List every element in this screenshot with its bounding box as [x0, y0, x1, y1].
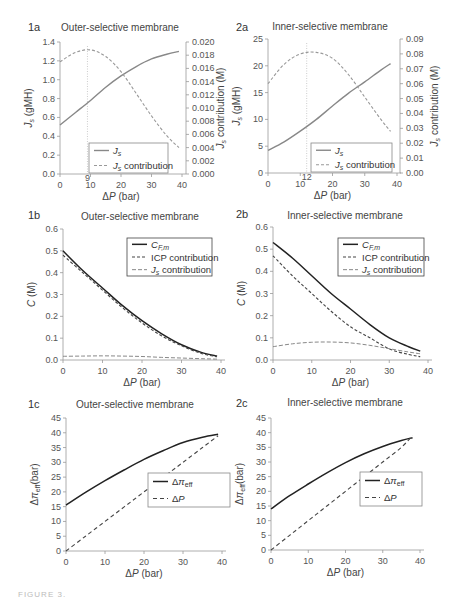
chart-panel-2c: 2cInner-selective membrane05101520253035…	[234, 397, 425, 578]
svg-text:30: 30	[146, 180, 156, 190]
svg-text:30: 30	[360, 179, 370, 189]
svg-text:35: 35	[256, 442, 266, 452]
legend: CF,mICP contributionJs contribution	[127, 238, 218, 276]
svg-text:15: 15	[51, 502, 61, 512]
legend-entry: Js contribution	[112, 160, 173, 172]
svg-text:25: 25	[256, 472, 266, 482]
series-line	[60, 50, 179, 148]
legend-entry: ICP contribution	[151, 252, 218, 263]
y-axis-label: Js (gMH)	[231, 86, 243, 126]
svg-text:0.5: 0.5	[255, 244, 268, 254]
y2-axis-label: Js contribution (M)	[429, 66, 441, 148]
figure-canvas: 1aOuter-selective membrane0.00.20.40.60.…	[0, 0, 458, 601]
svg-text:0.05: 0.05	[406, 94, 424, 104]
svg-text:5: 5	[258, 141, 263, 151]
svg-text:25: 25	[51, 472, 61, 482]
series-line	[273, 342, 420, 354]
legend: CF,mICP contributionJs contribution	[338, 238, 429, 276]
svg-text:45: 45	[51, 413, 61, 423]
svg-text:0.3: 0.3	[45, 290, 58, 300]
svg-text:0.4: 0.4	[42, 131, 55, 141]
svg-text:0.0: 0.0	[255, 355, 268, 365]
svg-text:20: 20	[139, 557, 149, 567]
svg-text:40: 40	[51, 428, 61, 438]
legend-entry: Js contribution	[334, 159, 395, 171]
svg-text:0: 0	[268, 556, 273, 566]
svg-text:0: 0	[57, 180, 62, 190]
svg-text:0.8: 0.8	[42, 94, 55, 104]
svg-text:0.09: 0.09	[406, 34, 424, 44]
svg-text:30: 30	[51, 457, 61, 467]
svg-text:0.6: 0.6	[255, 222, 268, 232]
svg-text:0.004: 0.004	[192, 143, 215, 153]
svg-text:0.006: 0.006	[192, 129, 215, 139]
svg-text:0.014: 0.014	[192, 77, 215, 87]
svg-text:0.2: 0.2	[42, 150, 55, 160]
svg-text:10: 10	[303, 556, 313, 566]
svg-text:20: 20	[51, 487, 61, 497]
svg-text:0.5: 0.5	[45, 246, 58, 256]
svg-text:0: 0	[63, 557, 68, 567]
svg-text:0.010: 0.010	[192, 103, 215, 113]
svg-text:0.04: 0.04	[406, 108, 424, 118]
svg-text:0.6: 0.6	[45, 224, 58, 234]
panel-title: Outer-selective membrane	[76, 399, 194, 410]
svg-text:20: 20	[137, 366, 147, 376]
chart-panel-1a: 1aOuter-selective membrane0.00.20.40.60.…	[23, 21, 227, 202]
legend: ΔπeffΔP	[360, 472, 422, 506]
svg-text:40: 40	[423, 366, 433, 376]
svg-text:9: 9	[85, 173, 90, 183]
svg-text:0.08: 0.08	[406, 49, 424, 59]
x-axis-label: ΔP (bar)	[123, 377, 160, 388]
svg-text:40: 40	[216, 366, 226, 376]
svg-text:1.2: 1.2	[42, 56, 55, 66]
svg-text:0: 0	[60, 366, 65, 376]
panel-label: 1c	[28, 398, 40, 410]
svg-text:0.0: 0.0	[42, 169, 55, 179]
chart-panel-2b: 2bInner-selective membrane0.00.10.20.30.…	[236, 208, 433, 388]
legend: JsJs contribution	[89, 143, 173, 173]
x-axis-label: ΔP (bar)	[327, 567, 364, 578]
series-line	[60, 51, 179, 125]
svg-text:20: 20	[256, 486, 266, 496]
svg-text:0.6: 0.6	[42, 112, 55, 122]
svg-text:10: 10	[51, 516, 61, 526]
y2-axis-label: Js contribution (M)	[215, 68, 227, 150]
panel-title: Inner-selective membrane	[287, 210, 403, 221]
svg-text:0.06: 0.06	[406, 79, 424, 89]
svg-text:0.1: 0.1	[45, 333, 58, 343]
svg-text:30: 30	[176, 366, 186, 376]
panel-title: Outer-selective membrane	[61, 22, 179, 33]
svg-text:10: 10	[307, 366, 317, 376]
y-axis-label: C (M)	[236, 281, 247, 306]
legend-entry: Js contribution	[361, 264, 422, 276]
x-axis-label: ΔP (bar)	[332, 377, 369, 388]
svg-text:0.1: 0.1	[255, 333, 268, 343]
x-axis-label: ΔP (bar)	[102, 191, 139, 202]
x-axis-label: ΔP (bar)	[125, 568, 162, 579]
chart-panel-1b: 1bOuter-selective membrane0.00.10.20.30.…	[26, 209, 226, 388]
svg-text:10: 10	[256, 516, 266, 526]
svg-text:20: 20	[253, 61, 263, 71]
panel-label: 2a	[236, 21, 249, 33]
svg-text:25: 25	[253, 34, 263, 44]
svg-text:30: 30	[178, 557, 188, 567]
svg-text:0.03: 0.03	[406, 123, 424, 133]
panel-label: 1a	[28, 21, 41, 33]
y-axis-label: Δπeff(bar)	[234, 463, 246, 505]
svg-text:12: 12	[302, 172, 312, 182]
svg-text:0.02: 0.02	[406, 138, 424, 148]
svg-text:0.002: 0.002	[192, 156, 215, 166]
svg-text:0.020: 0.020	[192, 37, 215, 47]
figure-caption: FIGURE 3.	[18, 590, 66, 599]
legend-entry: Js contribution	[150, 264, 211, 276]
y-axis-label: Δπeff(bar)	[29, 463, 41, 505]
svg-text:1.4: 1.4	[42, 37, 55, 47]
panel-title: Inner-selective membrane	[287, 397, 403, 408]
svg-text:40: 40	[415, 556, 425, 566]
panel-title: Inner-selective membrane	[272, 21, 388, 32]
svg-text:0.012: 0.012	[192, 90, 215, 100]
svg-text:0: 0	[56, 546, 61, 556]
svg-text:0.2: 0.2	[45, 311, 58, 321]
svg-text:0.3: 0.3	[255, 289, 268, 299]
